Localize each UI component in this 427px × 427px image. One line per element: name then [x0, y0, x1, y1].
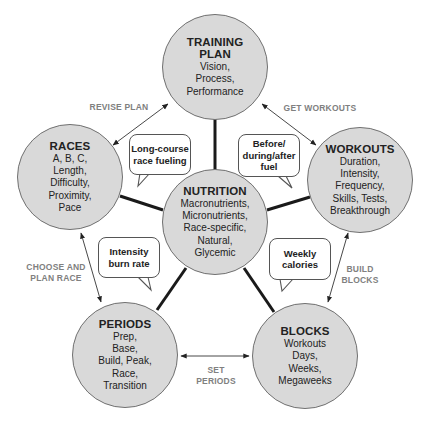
node-body: A, B, C, Length, Difficulty, Proximity, …: [48, 153, 91, 214]
tail-intensity: [138, 277, 151, 290]
callout-intensity-burn-rate: Intensity burn rate: [98, 237, 160, 278]
node-nutrition: NUTRITION Macronutrients, Micronutrients…: [162, 169, 268, 275]
tail-before-during: [278, 176, 292, 188]
node-body: Macronutrients, Micronutrients, Race-spe…: [181, 198, 250, 259]
node-title: NUTRITION: [183, 185, 247, 197]
spoke-periods: [157, 268, 186, 310]
node-races: RACES A, B, C, Length, Difficulty, Proxi…: [17, 124, 123, 230]
edge-label-build-blocks: BUILD BLOCKS: [334, 264, 386, 286]
node-title: TRAINING PLAN: [187, 36, 243, 60]
node-body: Workouts Days, Weeks, Megaweeks: [278, 338, 331, 387]
edge-label-revise-plan: REVISE PLAN: [84, 102, 154, 113]
node-body: Vision, Process, Performance: [186, 61, 243, 98]
node-blocks: BLOCKS Workouts Days, Weeks, Megaweeks: [252, 303, 358, 409]
node-periods: PERIODS Prep, Base, Build, Peak, Race, T…: [72, 302, 178, 408]
edge-label-choose-and-plan-race: CHOOSE AND PLAN RACE: [20, 262, 92, 284]
spoke-workouts: [267, 197, 310, 210]
node-body: Prep, Base, Build, Peak, Race, Transitio…: [98, 331, 151, 392]
spoke-races: [120, 196, 163, 210]
callout-weekly-calories: Weekly calories: [269, 238, 331, 280]
nutrition-cycle-diagram: REVISE PLAN GET WORKOUTS CHOOSE AND PLAN…: [0, 0, 427, 427]
node-title: RACES: [50, 140, 91, 152]
node-training-plan: TRAINING PLAN Vision, Process, Performan…: [162, 14, 268, 120]
callout-long-course-race-fueling: Long-course race fueling: [129, 134, 191, 175]
node-body: Duration, Intensity, Frequency, Skills, …: [330, 156, 390, 217]
callout-before-during-after-fuel: Before/ during/after fuel: [238, 134, 300, 177]
node-title: PERIODS: [99, 318, 151, 330]
node-title: BLOCKS: [280, 325, 329, 337]
node-title: WORKOUTS: [325, 143, 394, 155]
node-workouts: WORKOUTS Duration, Intensity, Frequency,…: [307, 127, 413, 233]
tail-weekly: [280, 279, 293, 291]
edge-label-set-periods: SET PERIODS: [190, 365, 242, 387]
edge-label-get-workouts: GET WORKOUTS: [280, 103, 360, 114]
